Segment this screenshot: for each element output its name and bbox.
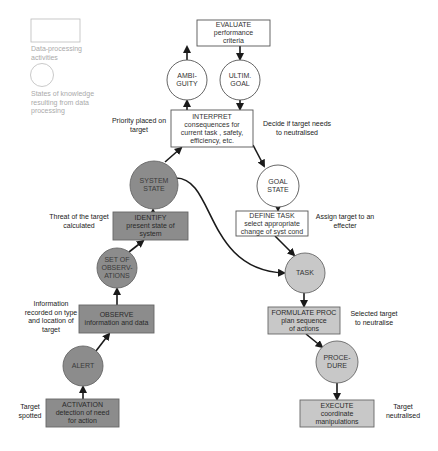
ambiguity-line2: GUITY xyxy=(176,80,197,88)
define-task-title: DEFINE TASK xyxy=(249,212,294,220)
identify-text: IDENTIFY present state of system xyxy=(113,212,188,240)
formulate-proc-title: FORMULATE PROC xyxy=(272,309,337,317)
activation-line2: for action xyxy=(68,417,97,425)
define-task-line2: change of syst cond xyxy=(241,228,303,236)
goal-state-text: GOAL STATE xyxy=(257,165,299,207)
activation-text: ACTIVATION detection of need for action xyxy=(46,399,119,427)
execute-line2: manipulations xyxy=(315,418,358,426)
annotation-assign: Assign target to an effecter xyxy=(315,213,375,230)
set-of-observations-line1: SET OF xyxy=(104,256,129,264)
ultim-goal-line2: GOAL xyxy=(230,80,249,88)
interpret-line3: efficiency, etc. xyxy=(190,137,234,145)
alert-text: ALERT xyxy=(63,346,103,386)
execute-text: EXECUTE coordinate manipulations xyxy=(300,400,374,427)
system-state-line1: SYSTEM xyxy=(140,177,169,185)
procedure-line2: DURE xyxy=(327,362,347,370)
set-of-observations-text: SET OF OBSERV- ATIONS xyxy=(97,248,137,288)
set-of-observations-line2: OBSERV- xyxy=(102,264,133,272)
goal-state-line2: STATE xyxy=(267,186,289,194)
system-state-line2: STATE xyxy=(143,185,165,193)
alert-line1: ALERT xyxy=(72,362,94,370)
annotation-priority: Priority placed on target xyxy=(108,117,170,134)
legend-circle-icon xyxy=(31,64,54,87)
system-state-text: SYSTEM STATE xyxy=(130,161,178,209)
task-line1: TASK xyxy=(296,269,314,277)
interpret-title: INTERPRET xyxy=(192,113,232,121)
legend-box-label: Data-processing activities xyxy=(31,45,91,62)
observe-title: OBSERVE xyxy=(100,311,134,319)
annotation-information: Information recorded on type and locatio… xyxy=(22,300,80,334)
identify-title: IDENTIFY xyxy=(135,214,167,222)
formulate-proc-text: FORMULATE PROC plan sequence of actions xyxy=(268,307,340,334)
execute-line1: coordinate xyxy=(321,410,354,418)
evaluate-title: EVALUATE xyxy=(216,21,252,29)
activation-line1: detection of need xyxy=(56,409,110,417)
annotation-decide: Decide if target needs to neutralised xyxy=(262,120,332,137)
legend-circle-label: States of knowledge resulting from data … xyxy=(31,90,96,116)
formulate-proc-line2: of actions xyxy=(289,325,319,333)
evaluate-line1: performance xyxy=(214,29,253,37)
define-task-text: DEFINE TASK select appropriate change of… xyxy=(236,211,308,236)
annotation-threat: Threat of the target calculated xyxy=(46,213,112,230)
ambiguity-line1: AMBI- xyxy=(177,72,196,80)
interpret-text: INTERPRET consequences for current task … xyxy=(171,110,253,147)
legend-box-icon xyxy=(31,19,80,42)
activation-title: ACTIVATION xyxy=(62,401,103,409)
formulate-proc-line1: plan sequence xyxy=(281,317,327,325)
evaluate-line2: criteria xyxy=(223,37,244,45)
identify-line1: present state of xyxy=(126,222,174,230)
goal-state-line1: GOAL xyxy=(268,178,287,186)
evaluate-text: EVALUATE performance criteria xyxy=(197,20,270,46)
ultim-goal-line1: ULTIM. xyxy=(229,72,251,80)
observe-line1: information and data xyxy=(85,319,149,327)
ultim-goal-text: ULTIM. GOAL xyxy=(220,60,260,100)
identify-line2: system xyxy=(139,230,161,238)
annotation-selected: Selected target to neutralise xyxy=(348,310,400,327)
interpret-line2: current task , safety, xyxy=(181,129,244,137)
procedure-text: PROCE- DURE xyxy=(316,341,358,383)
annotation-neutralised: Target neutralised xyxy=(380,403,426,420)
annotation-spotted: Target spotted xyxy=(14,403,46,420)
ambiguity-text: AMBI- GUITY xyxy=(167,60,207,100)
procedure-line1: PROCE- xyxy=(323,354,350,362)
define-task-line1: select appropriate xyxy=(244,220,300,228)
set-of-observations-line3: ATIONS xyxy=(104,272,130,280)
execute-title: EXECUTE xyxy=(320,402,353,410)
observe-text: OBSERVE information and data xyxy=(79,305,154,333)
task-text: TASK xyxy=(285,253,325,293)
interpret-line1: consequences for xyxy=(184,121,239,129)
